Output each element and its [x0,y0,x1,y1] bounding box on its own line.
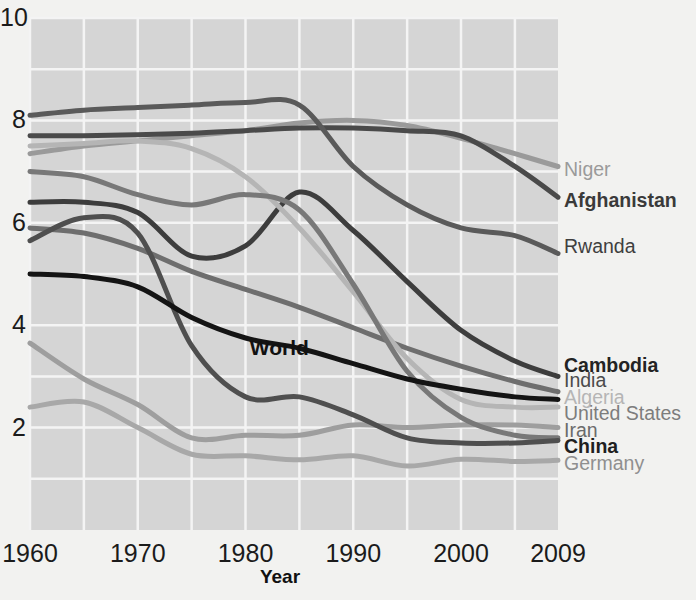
x-tick-1970: 1970 [110,538,166,568]
y-axis-tick-labels: 246810 [0,0,28,540]
x-axis-title: Year [0,566,560,588]
y-tick-6: 6 [0,210,26,235]
series-label-niger[interactable]: Niger [564,159,611,179]
y-tick-4: 4 [0,312,26,337]
y-tick-8: 8 [0,107,26,132]
y-tick-10: 10 [0,5,26,30]
x-tick-1990: 1990 [325,538,381,568]
series-label-germany[interactable]: Germany [564,453,644,473]
fertility-rate-line-chart: 246810 196019701980199020002009 Year Nig… [0,0,696,600]
series-end-labels: NigerAfghanistanRwandaCambodiaIndiaAlger… [560,0,696,600]
series-label-rwanda[interactable]: Rwanda [564,236,636,256]
x-tick-1960: 1960 [2,538,58,568]
x-tick-2000: 2000 [433,538,489,568]
series-label-afghanistan[interactable]: Afghanistan [564,190,677,210]
y-tick-2: 2 [0,415,26,440]
annotation-world: World [250,336,309,360]
x-tick-1980: 1980 [218,538,274,568]
